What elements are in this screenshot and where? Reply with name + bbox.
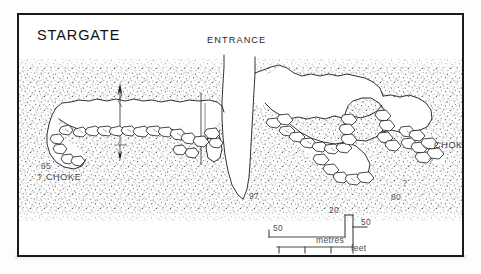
choke-label-right: CHOKE — [434, 140, 464, 150]
scale-feet-50-right: 50 — [361, 217, 371, 227]
scale-metres-20: 20 — [329, 205, 339, 215]
depth-label-65: 65 — [41, 161, 51, 171]
scale-feet-50: 50 — [325, 253, 335, 257]
scale-metres-50: 50 — [273, 223, 283, 233]
scale-unit-metres: metres — [316, 235, 344, 245]
scale-bar: 50 20 metres 50 feet 150 100 50 — [257, 203, 387, 257]
depth-label-80: 80 — [391, 192, 401, 202]
entrance-label: ENTRANCE — [207, 35, 266, 45]
scale-feet-150: 150 — [275, 253, 290, 257]
scale-feet-100: 100 — [299, 253, 314, 257]
cave-survey-map: 50 20 metres 50 feet 150 100 50 STARGATE… — [0, 0, 481, 274]
question-mark-east: ? — [428, 156, 433, 166]
depth-label-97: 97 — [249, 191, 259, 201]
page-title: STARGATE — [37, 27, 120, 43]
survey-frame-border: 50 20 metres 50 feet 150 100 50 STARGATE… — [17, 13, 464, 257]
cave-plan-drawing — [19, 15, 462, 255]
choke-label-left: ? CHOKE — [37, 172, 81, 182]
question-mark-south-east: ? — [402, 178, 407, 188]
scale-unit-feet: feet — [351, 243, 367, 253]
